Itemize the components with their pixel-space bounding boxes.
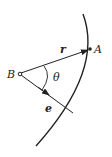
angle-arc <box>42 66 48 90</box>
curve-arc <box>36 14 88 146</box>
label-b: B <box>6 68 15 81</box>
vector-r-line <box>21 50 88 73</box>
label-theta: θ <box>53 71 60 84</box>
diagram-canvas: A B r e θ <box>0 0 112 157</box>
label-e: e <box>45 102 52 115</box>
label-a: A <box>93 43 102 56</box>
label-r: r <box>60 43 67 56</box>
point-b <box>18 72 22 76</box>
point-a <box>88 47 92 51</box>
